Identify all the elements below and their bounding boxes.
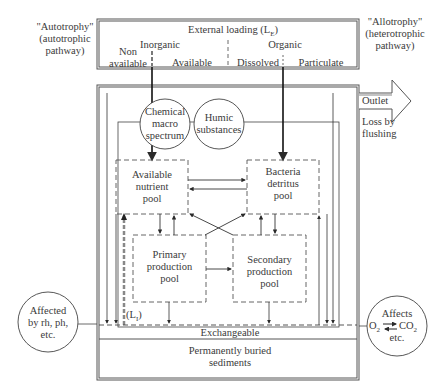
autotrophy-label: "Autotrophy"(autotrophicpathway) <box>20 21 110 57</box>
outlet-label: Outlet <box>362 95 398 107</box>
external-loading-title: External loading (LE) <box>168 24 298 40</box>
non-available-label: Nonavailable <box>104 46 152 70</box>
available-label: Available <box>160 57 224 69</box>
affects-etc-label: etc. <box>372 332 422 344</box>
dissolved-label: Dissolved <box>233 57 283 69</box>
exchangeable-label: Exchangeable <box>180 327 280 339</box>
chemical-macro-spectrum-label: Chemicalmacrospectrum <box>140 106 190 142</box>
allotrophy-label: "Allotrophy"(heterotrophicpathway) <box>350 16 439 52</box>
affected-by-label: Affectedby rh, ph,etc. <box>18 305 78 341</box>
permanently-buried-label: Permanently buriedsediments <box>160 345 300 369</box>
secondary-production-pool-label: Secondaryproductionpool <box>233 254 306 290</box>
humic-substances-label: Humicsubstances <box>194 112 244 136</box>
primary-production-pool-label: Primaryproductionpool <box>133 249 206 285</box>
organic-label: Organic <box>250 39 320 51</box>
affects-label: Affects <box>372 308 422 320</box>
inner-frame <box>118 122 339 327</box>
particulate-label: Particulate <box>285 57 357 69</box>
loss-by-flushing-label: Loss byflushing <box>362 116 412 140</box>
bacteria-detritus-pool-label: Bacteriadetrituspool <box>247 166 319 202</box>
internal-loading-label: (LI) <box>126 309 148 325</box>
available-nutrient-pool-label: Availablenutrientpool <box>116 169 188 205</box>
